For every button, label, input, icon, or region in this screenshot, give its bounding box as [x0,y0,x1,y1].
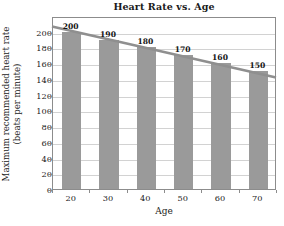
bar-value-label: 150 [243,62,271,70]
x-axis-tick-mark [164,190,165,193]
y-axis-tick-mark [48,159,52,160]
x-axis-tick-mark [276,190,277,193]
y-axis-label-line-2: (beats per minute) [11,26,22,181]
chart-title: Heart Rate vs. Age [52,1,276,13]
x-axis-tick-mark [201,190,202,193]
bar [99,40,118,189]
gridline [53,65,275,66]
y-axis-tick-mark [48,80,52,81]
bar [62,32,81,189]
gridline [53,175,275,176]
bar-value-label: 200 [57,23,85,31]
y-axis-label-line-1: Maximum recommended heart rate [1,26,12,181]
bar [174,55,193,189]
bar [211,63,230,189]
y-axis-tick-mark [48,48,52,49]
gridline [53,128,275,129]
x-axis-tick-mark [52,190,53,193]
y-axis-tick-mark [48,64,52,65]
footer-artifact [4,218,154,224]
x-axis-tick-mark [127,190,128,193]
x-axis-tick-label: 60 [205,194,235,203]
y-axis-tick-mark [48,127,52,128]
gridline [53,112,275,113]
y-axis-tick-mark [48,143,52,144]
bar-value-label: 170 [169,46,197,54]
bar-value-label: 180 [131,38,159,46]
gridline [53,160,275,161]
x-axis-label: Age [52,206,276,217]
x-axis-tick-label: 20 [56,194,86,203]
gridline [53,81,275,82]
x-axis-tick-label: 40 [130,194,160,203]
bar [137,47,156,189]
x-axis-tick-label: 70 [242,194,272,203]
gridline [53,144,275,145]
bar-value-label: 190 [94,31,122,39]
x-axis-tick-label: 30 [93,194,123,203]
bar-value-label: 160 [206,54,234,62]
y-axis-tick-mark [48,96,52,97]
gridline [53,49,275,50]
bar [249,71,268,189]
y-axis-tick-mark [48,33,52,34]
y-axis-tick-mark [48,111,52,112]
x-axis-tick-label: 50 [168,194,198,203]
gridline [53,34,275,35]
y-axis-tick-mark [48,174,52,175]
plot-area [52,17,276,190]
gridline [53,97,275,98]
x-axis-tick-mark [239,190,240,193]
y-axis-label: Maximum recommended heart rate (beats pe… [0,17,22,190]
chart-figure: Heart Rate vs. Age Maximum recommended h… [0,0,284,226]
x-axis-tick-mark [89,190,90,193]
